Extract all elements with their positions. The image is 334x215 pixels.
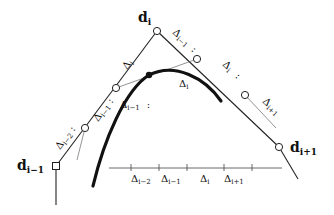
- label-left-mid: Δi−1:: [91, 96, 117, 125]
- svg-text:Δi+1: Δi+1: [259, 95, 282, 118]
- label-inner-left: Δi−1:: [120, 99, 150, 112]
- polygon-edge-right: [157, 31, 279, 147]
- svg-text:Δi:: Δi:: [219, 58, 243, 82]
- axis-label-2: Δi: [200, 173, 210, 186]
- division-point-left-lower: [81, 124, 88, 131]
- label-d-i-minus-1: di−1: [17, 157, 44, 175]
- label-left-upper: Δi: [120, 56, 137, 72]
- svg-text:Δi−1:: Δi−1:: [169, 26, 199, 55]
- parameter-axis: [109, 164, 282, 171]
- label-right-mid: Δi:: [219, 58, 243, 82]
- axis-label-0: Δi−2: [131, 173, 151, 186]
- control-point-dim1: [53, 163, 60, 170]
- label-inner-right: Δi: [179, 78, 189, 91]
- division-point-right-upper: [193, 55, 200, 62]
- control-point-dip1: [275, 143, 282, 150]
- label-right-upper: Δi−1:: [169, 26, 199, 55]
- spline-construction-diagram: di di−1 di+1 Δi Δi−1: Δi−2: Δi−1: Δi: Δi…: [0, 0, 334, 215]
- curve-point-dot: [146, 72, 152, 78]
- label-d-i: di: [138, 9, 152, 27]
- control-point-di: [153, 27, 160, 34]
- svg-text:Δi: Δi: [120, 56, 137, 72]
- axis-label-1: Δi−1: [161, 173, 181, 186]
- division-point-left-upper: [112, 84, 119, 91]
- axis-label-3: Δi+1: [224, 173, 244, 186]
- label-d-i-plus-1: di+1: [290, 139, 317, 157]
- label-right-lower: Δi+1: [259, 95, 282, 118]
- svg-text:Δi−1:: Δi−1:: [91, 96, 117, 125]
- svg-text:Δi−2:: Δi−2:: [53, 124, 79, 153]
- label-left-lower: Δi−2:: [53, 124, 79, 153]
- division-point-right-lower: [241, 91, 248, 98]
